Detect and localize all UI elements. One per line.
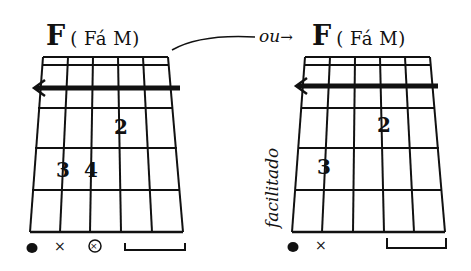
left-chord-label: ( Fá M) xyxy=(70,28,139,49)
connector-text: ou→ xyxy=(259,26,293,46)
finger-2: 2 xyxy=(114,115,128,139)
finger-3: 3 xyxy=(317,155,331,179)
finger-4: 4 xyxy=(84,158,98,182)
x-mark-icon: × xyxy=(315,237,327,253)
x-mark-icon: × xyxy=(54,238,66,254)
finger-3: 3 xyxy=(56,158,70,182)
ou-text: ou xyxy=(259,26,280,46)
left-chord-name: F xyxy=(46,20,65,51)
chord-diagram-figure: F ( Fá M) ou→ F ( Fá M) 2 3 4 2 3 facili… xyxy=(0,0,471,271)
right-fretboard xyxy=(288,57,447,252)
facilitado-label: facilitado xyxy=(262,148,282,228)
right-chord-name: F xyxy=(312,20,331,51)
right-chord-label: ( Fá M) xyxy=(336,28,405,49)
left-fretboard xyxy=(27,57,186,253)
left-chord-title: F ( Fá M) xyxy=(46,20,140,51)
right-chord-title: F ( Fá M) xyxy=(312,20,406,51)
finger-2: 2 xyxy=(377,113,391,137)
circled-x-icon: × xyxy=(90,241,98,251)
arrow-right-icon: → xyxy=(280,28,293,46)
connector-curve xyxy=(172,37,255,50)
